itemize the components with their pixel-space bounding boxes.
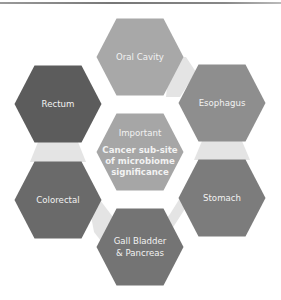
hexagon-label-colorectal: Colorectal	[36, 195, 79, 205]
hexagon-label-stomach: Stomach	[203, 193, 241, 203]
connector-esophagus-stomach	[194, 141, 250, 160]
hexagon-label-gall-bladder-pancreas: Gall Bladder	[114, 236, 167, 246]
connector-rectum-colorectal	[30, 142, 86, 162]
center-subtitle: Cancer sub-site	[102, 145, 177, 155]
hexagon-label-gall-bladder-pancreas: & Pancreas	[116, 248, 165, 258]
center-subtitle: significance	[111, 167, 169, 177]
hexagon-label-esophagus: Esophagus	[199, 98, 246, 108]
hexagon-label-oral-cavity: Oral Cavity	[116, 52, 164, 62]
center-subtitle: of microbiome	[105, 156, 175, 166]
hexagon-diagram: Oral CavityEsophagusStomachGall Bladder&…	[0, 0, 281, 300]
hexagon-label-rectum: Rectum	[42, 99, 75, 109]
center-title: Important	[119, 128, 162, 138]
